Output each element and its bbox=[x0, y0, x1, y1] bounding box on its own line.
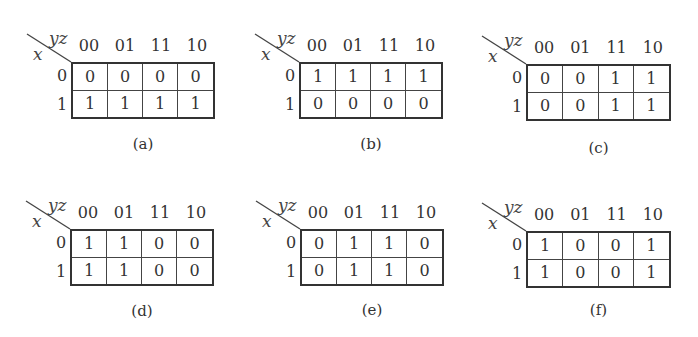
row-header: 0 bbox=[510, 235, 524, 254]
kmap-cell: 1 bbox=[634, 233, 669, 260]
column-header: 00 bbox=[526, 205, 562, 224]
kmap-cell: 0 bbox=[563, 233, 598, 260]
column-header: 11 bbox=[599, 205, 635, 224]
kmap-caption: (f) bbox=[579, 301, 619, 319]
kmap-cell: 1 bbox=[528, 260, 563, 287]
kmap-cell: 0 bbox=[599, 233, 634, 260]
row-variable-label: x bbox=[488, 213, 498, 233]
kmap-cell: 0 bbox=[563, 260, 598, 287]
kmap-cell: 0 bbox=[599, 260, 634, 287]
kmap-cell: 1 bbox=[634, 260, 669, 287]
column-variable-label: yz bbox=[504, 197, 523, 217]
kmap-cell: 1 bbox=[528, 233, 563, 260]
column-header: 01 bbox=[562, 205, 598, 224]
column-header: 10 bbox=[635, 205, 671, 224]
kmap-grid: 10011001 bbox=[526, 231, 671, 288]
row-header: 1 bbox=[510, 264, 524, 283]
